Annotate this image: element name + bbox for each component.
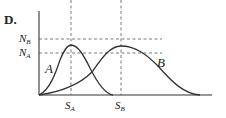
- x-tick-sb-sub: B: [121, 105, 125, 113]
- curve-b-label: B: [157, 56, 165, 69]
- y-tick-nb-sub: B: [26, 38, 30, 46]
- y-tick-nb: NB: [19, 33, 31, 46]
- diagram: [0, 0, 226, 118]
- y-tick-na: NA: [19, 47, 31, 60]
- option-label: D.: [4, 13, 17, 26]
- curve-a-label: A: [45, 62, 53, 75]
- x-tick-sb: SB: [115, 100, 125, 113]
- y-tick-na-sub: A: [26, 52, 30, 60]
- x-tick-sa-sub: A: [71, 105, 75, 113]
- x-tick-sa: SA: [65, 100, 75, 113]
